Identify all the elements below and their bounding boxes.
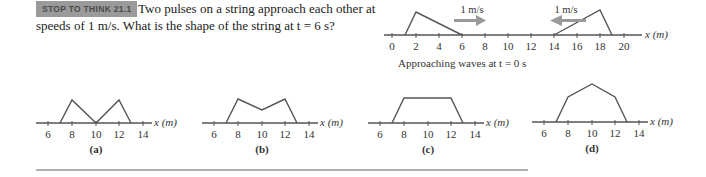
answer-shape-b: [226, 99, 297, 123]
right-arrow-icon: [454, 15, 486, 26]
tick-label: 14: [138, 128, 150, 140]
figure-caption: Approaching waves at t = 0 s: [398, 57, 526, 69]
answer-figure-d[interactable]: 6 8 10 12 14 x (m) (d): [532, 78, 692, 157]
approaching-waves-figure: 0 2 4 6 8 10 12 14 16 18 20 x (m) 1 m/s …: [380, 0, 706, 80]
tick-label: 12: [446, 128, 457, 140]
tick-label: 10: [503, 40, 515, 52]
tick-label: 2: [413, 40, 419, 52]
answer-label-c: (c): [422, 143, 435, 156]
tick-label: 10: [423, 128, 435, 140]
tick-label: 14: [304, 128, 316, 140]
tick-label: 6: [541, 127, 547, 139]
tick-label: 14: [470, 128, 482, 140]
left-pulse: [405, 12, 462, 35]
x-axis-label: x (m): [153, 116, 177, 129]
tick-label: 14: [549, 40, 561, 52]
answer-figure-a[interactable]: 6 8 10 12 14 x (m) (a): [36, 85, 181, 157]
tick-label: 8: [482, 40, 488, 52]
tick-label: 4: [436, 40, 442, 52]
tick-label: 8: [565, 127, 571, 139]
tick-label: 16: [572, 40, 584, 52]
tick-label: 12: [610, 127, 621, 139]
tick-label: 12: [526, 40, 537, 52]
tick-label: 12: [114, 128, 125, 140]
tick-label: 6: [45, 128, 51, 140]
right-speed-label: 1 m/s: [554, 4, 577, 15]
answer-label-a: (a): [90, 143, 103, 156]
tick-label: 10: [91, 128, 103, 140]
tick-label: 8: [69, 128, 75, 140]
answer-figure-b[interactable]: 6 8 10 12 14 x (m) (b): [202, 85, 347, 157]
tick-label: 20: [619, 40, 631, 52]
tick-label: 14: [634, 127, 646, 139]
answer-figure-c[interactable]: 6 8 10 12 14 x (m) (c): [368, 85, 513, 157]
stop-to-think-badge: STOP TO THINK 21.1: [36, 1, 137, 17]
answer-label-d: (d): [585, 142, 599, 155]
answer-shape-a: [60, 100, 131, 123]
answer-shape-d: [556, 84, 627, 122]
tick-label: 18: [595, 40, 607, 52]
x-axis-label: x (m): [649, 115, 673, 128]
answer-label-b: (b): [255, 143, 269, 156]
left-arrow-icon: [550, 15, 586, 26]
left-speed-label: 1 m/s: [460, 4, 483, 15]
tick-label: 8: [235, 128, 241, 140]
section-divider: [36, 169, 528, 171]
tick-label: 6: [459, 40, 465, 52]
x-axis-label: x (m): [644, 28, 668, 41]
answer-shape-c: [392, 98, 463, 123]
tick-label: 6: [377, 128, 383, 140]
tick-label: 6: [211, 128, 217, 140]
tick-label: 8: [401, 128, 407, 140]
tick-label: 10: [257, 128, 269, 140]
x-axis-label: x (m): [319, 116, 343, 129]
question-text-line1: Two pulses on a string approach each oth…: [138, 1, 375, 17]
tick-label: 10: [587, 127, 599, 139]
x-axis-label: x (m): [485, 116, 509, 129]
tick-label: 12: [280, 128, 291, 140]
tick-label: 0: [389, 40, 395, 52]
question-text-line2: speeds of 1 m/s. What is the shape of th…: [36, 18, 335, 34]
